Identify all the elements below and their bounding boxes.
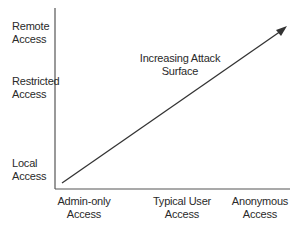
increasing-attack-surface-annotation: Increasing Attack Surface xyxy=(130,52,230,78)
y-label-line1: Local xyxy=(12,157,46,170)
y-label-line2: Access xyxy=(12,170,46,183)
y-label-line2: Access xyxy=(12,88,60,101)
y-label-line1: Remote xyxy=(12,20,49,33)
x-label-line1: Admin-only xyxy=(39,195,129,208)
x-label-anonymous-access: Anonymous Access xyxy=(215,195,302,221)
x-label-line2: Access xyxy=(215,208,302,221)
y-label-line2: Access xyxy=(12,33,49,46)
y-label-local-access: Local Access xyxy=(12,157,46,183)
arrow-head-icon xyxy=(276,26,287,36)
x-label-typical-user-access: Typical User Access xyxy=(137,195,227,221)
x-label-admin-only-access: Admin-only Access xyxy=(39,195,129,221)
x-label-line1: Anonymous xyxy=(215,195,302,208)
y-label-restricted-access: Restricted Access xyxy=(12,75,60,101)
y-label-line1: Restricted xyxy=(12,75,60,88)
x-label-line2: Access xyxy=(39,208,129,221)
x-label-line2: Access xyxy=(137,208,227,221)
x-label-line1: Typical User xyxy=(137,195,227,208)
annotation-line1: Increasing Attack xyxy=(130,52,230,65)
y-label-remote-access: Remote Access xyxy=(12,20,49,46)
annotation-line2: Surface xyxy=(130,65,230,78)
